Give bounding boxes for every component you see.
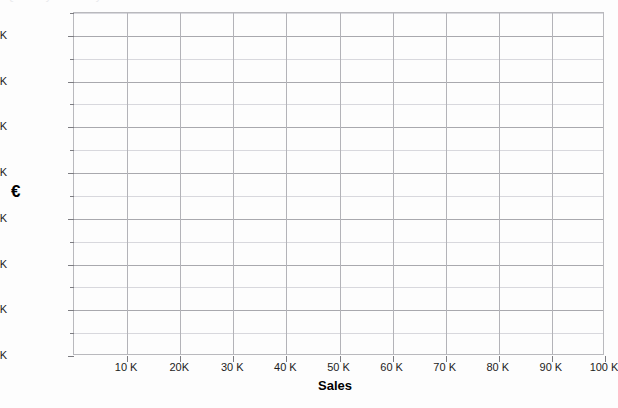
y-tick-label: 400 K (0, 166, 7, 178)
y-tick-label: 200 K (0, 258, 7, 270)
y-tick-minor (70, 59, 74, 60)
gridline-vertical (286, 13, 287, 354)
gridline-horizontal-minor (74, 242, 603, 243)
x-tick-label: 40 K (274, 361, 297, 373)
vertical-gridlines (74, 13, 603, 354)
x-tick-label: 50 K (327, 361, 350, 373)
y-axis-ticks (74, 13, 603, 354)
x-tick-label: 80 K (486, 361, 509, 373)
y-tick-minor (70, 287, 74, 288)
y-tick-minor (70, 242, 74, 243)
x-tick-label: 60 K (380, 361, 403, 373)
gridline-vertical (180, 13, 181, 354)
y-tick-minor (70, 104, 74, 105)
gridline-horizontal-minor (74, 196, 603, 197)
y-tick-major (68, 82, 74, 83)
y-tick-label: 300 K (0, 212, 7, 224)
y-axis-title: € (11, 182, 20, 202)
chart-figure: € Sales 0 K100 K200 K300 K400 K500 K600 … (0, 0, 618, 408)
gridline-horizontal-minor (74, 150, 603, 151)
x-tick-label: 20K (169, 361, 189, 373)
y-tick-label: 100 K (0, 303, 7, 315)
gridline-horizontal-minor (74, 287, 603, 288)
y-tick-major (68, 36, 74, 37)
gridline-horizontal-major (74, 36, 603, 37)
y-tick-major (68, 219, 74, 220)
gridline-horizontal-minor (74, 104, 603, 105)
y-tick-label: 700 K (0, 29, 7, 41)
horizontal-gridlines (74, 13, 603, 354)
gridline-vertical (340, 13, 341, 354)
x-tick-label: 100 K (590, 361, 618, 373)
x-axis-title: Sales (318, 378, 352, 393)
y-tick-major (68, 310, 74, 311)
gridline-horizontal-major (74, 219, 603, 220)
gridline-horizontal-major (74, 265, 603, 266)
gridline-horizontal-major (74, 127, 603, 128)
x-tick-label: 30 K (221, 361, 244, 373)
y-tick-label: 500 K (0, 120, 7, 132)
gridline-vertical (446, 13, 447, 354)
series-layer (74, 13, 603, 354)
y-tick-minor (70, 150, 74, 151)
y-tick-label: 600 K (0, 75, 7, 87)
y-tick-major (68, 356, 74, 357)
gridline-horizontal-major (74, 173, 603, 174)
y-tick-major (68, 265, 74, 266)
y-tick-label: 0 K (0, 349, 7, 361)
gridline-vertical (393, 13, 394, 354)
y-tick-major (68, 127, 74, 128)
x-axis-ticks (74, 13, 603, 354)
x-tick-label: 90 K (540, 361, 563, 373)
y-tick-minor (70, 196, 74, 197)
gridline-horizontal-major (74, 310, 603, 311)
x-tick-label: 70 K (433, 361, 456, 373)
y-tick-minor (70, 333, 74, 334)
gridline-horizontal-minor (74, 13, 603, 14)
gridline-vertical (127, 13, 128, 354)
plot-area (73, 12, 604, 355)
gridline-vertical (499, 13, 500, 354)
x-tick-label: 10 K (115, 361, 138, 373)
gridline-horizontal-minor (74, 333, 603, 334)
gridline-horizontal-major (74, 82, 603, 83)
gridline-vertical (552, 13, 553, 354)
gridline-vertical (233, 13, 234, 354)
y-tick-major (68, 173, 74, 174)
y-tick-minor (70, 13, 74, 14)
gridline-horizontal-minor (74, 59, 603, 60)
